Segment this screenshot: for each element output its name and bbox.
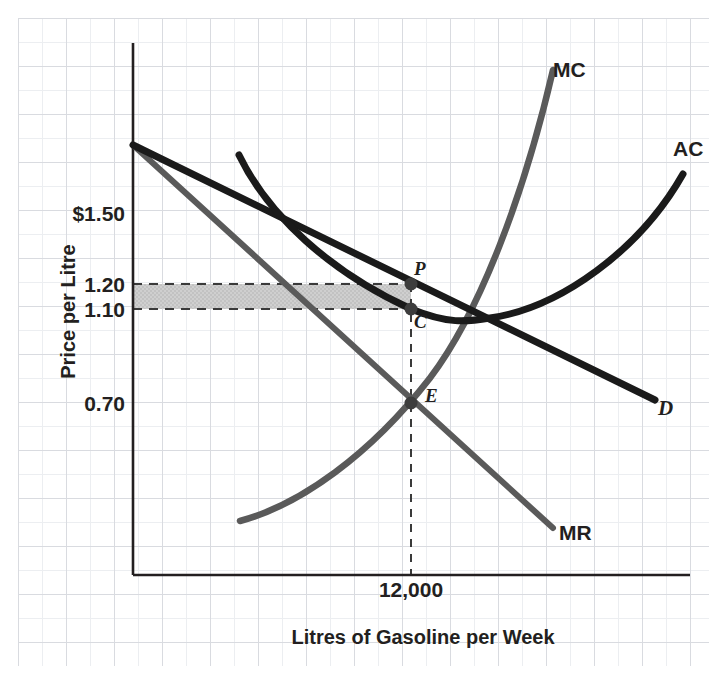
point-label-c: C — [414, 311, 427, 333]
y-axis-title: Price per Litre — [57, 222, 80, 402]
curve-label-mc: MC — [553, 58, 586, 82]
point-label-p: P — [414, 258, 426, 280]
point-label-e: E — [425, 385, 438, 407]
x-axis-title: Litres of Gasoline per Week — [263, 626, 583, 649]
mr-curve — [133, 145, 553, 528]
curve-label-d: D — [658, 396, 673, 421]
point-E-dot — [405, 397, 418, 410]
x-tick-label-12000: 12,000 — [351, 578, 471, 602]
curve-label-ac: AC — [673, 137, 703, 161]
chart-canvas: $1.50 1.20 1.10 0.70 Price per Litre 12,… — [0, 0, 727, 684]
d-curve — [133, 145, 655, 400]
curve-label-mr: MR — [559, 521, 592, 545]
